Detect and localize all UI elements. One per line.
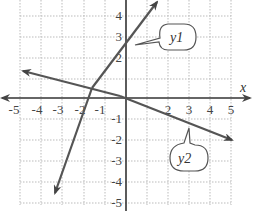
svg-text:5: 5	[228, 102, 235, 117]
svg-text:3: 3	[186, 102, 193, 117]
y-tick-labels: 4 3 2 -1 -2 -3 -4 -5	[111, 8, 122, 210]
svg-text:-5: -5	[111, 195, 122, 210]
svg-text:-4: -4	[32, 102, 43, 117]
svg-text:-3: -3	[53, 102, 64, 117]
svg-text:3: 3	[116, 29, 123, 44]
svg-text:-5: -5	[9, 102, 20, 117]
svg-text:-2: -2	[111, 132, 122, 147]
svg-text:-3: -3	[111, 153, 122, 168]
y2-callout: y2	[170, 128, 208, 171]
svg-text:y2: y2	[176, 151, 191, 166]
svg-text:-4: -4	[111, 174, 122, 189]
svg-text:4: 4	[207, 102, 214, 117]
svg-text:y1: y1	[168, 30, 183, 45]
series-y2-line	[23, 71, 120, 96]
svg-text:-1: -1	[111, 111, 122, 126]
svg-text:-1: -1	[95, 102, 106, 117]
svg-text:4: 4	[116, 8, 123, 23]
graph-plot: x -5 -4 -3 -2 -1 2 3 4 5 4 3 2 -1 -2 -3 …	[0, 0, 253, 211]
x-axis-label: x	[239, 80, 247, 95]
series-y2-line	[120, 96, 232, 140]
